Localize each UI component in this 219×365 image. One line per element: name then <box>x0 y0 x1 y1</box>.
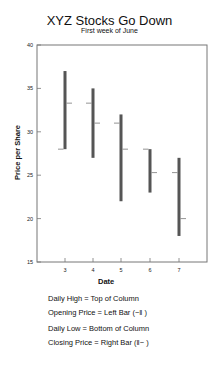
x-tick-label: 5 <box>119 267 122 273</box>
y-tick-label: 30 <box>27 129 33 135</box>
price-range-bar <box>92 88 95 157</box>
legend-open: Opening Price = Left Bar (−‖ ) <box>48 308 147 317</box>
x-tick-label: 6 <box>148 267 151 273</box>
x-tick-label: 3 <box>63 267 66 273</box>
legend-close: Closing Price = Right Bar (‖− ) <box>48 338 149 347</box>
legend-high: Daily High = Top of Column <box>48 294 139 303</box>
y-tick-label: 25 <box>27 172 33 178</box>
x-tick-label: 4 <box>91 267 94 273</box>
y-axis-label: Price per Share <box>13 118 22 188</box>
y-tick-label: 40 <box>27 42 33 48</box>
x-axis-label: Date <box>98 277 114 286</box>
y-tick-label: 20 <box>27 216 33 222</box>
legend-low: Daily Low = Bottom of Column <box>48 324 149 333</box>
price-range-bar <box>64 71 67 149</box>
x-tick-label: 7 <box>177 267 180 273</box>
price-range-bar <box>178 158 181 236</box>
price-range-bar <box>120 114 123 201</box>
y-tick-label: 15 <box>27 259 33 265</box>
price-range-bar <box>149 149 152 192</box>
y-tick-label: 35 <box>27 85 33 91</box>
